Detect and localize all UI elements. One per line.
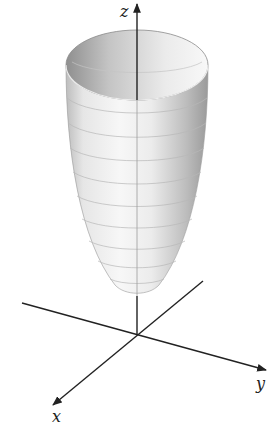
z-axis-label: z [119, 2, 129, 21]
x-axis-label: x [52, 407, 61, 426]
x-axis [53, 281, 203, 405]
y-axis [22, 303, 266, 370]
paraboloid-diagram: z x y [0, 0, 279, 447]
y-axis-label: y [255, 374, 266, 393]
